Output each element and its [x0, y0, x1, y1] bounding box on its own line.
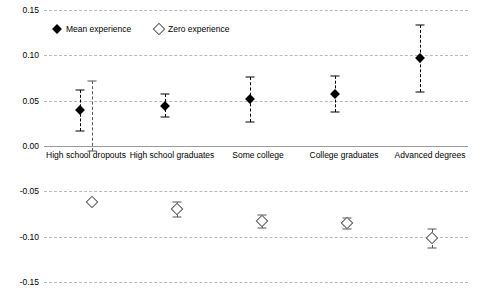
data-point-mean-experience: [160, 101, 170, 111]
error-bar-cap: [88, 80, 97, 81]
ytick-label: -0.15: [20, 277, 39, 287]
data-point-mean-experience: [415, 53, 425, 63]
data-point-zero-experience: [86, 196, 99, 209]
ytick-label: 0.05: [22, 96, 39, 106]
error-bar-cap: [161, 116, 170, 117]
error-bar-cap: [88, 150, 97, 151]
error-bar-cap: [246, 77, 255, 78]
ytick-label: 0.10: [22, 50, 39, 60]
error-bar-cap: [173, 216, 182, 217]
error-bar-cap: [76, 131, 85, 132]
data-point-mean-experience: [75, 105, 85, 115]
ytick-label: -0.10: [20, 232, 39, 242]
error-bar: [92, 81, 93, 151]
error-bar-cap: [246, 121, 255, 122]
error-bar-cap: [427, 229, 436, 230]
ytick-label: -0.05: [20, 186, 39, 196]
error-bar-cap: [161, 94, 170, 95]
ytick-label: 0.00: [22, 141, 39, 151]
error-bar-cap: [415, 25, 424, 26]
data-series-layer: [44, 10, 468, 282]
data-point-mean-experience: [245, 94, 255, 104]
error-bar-cap: [415, 91, 424, 92]
gridline--0.15: [44, 282, 468, 283]
data-point-mean-experience: [330, 89, 340, 99]
data-point-zero-experience: [425, 232, 438, 245]
chart-container: 0.15 0.10 0.05 0.00 -0.05 -0.10 -0.15 Me…: [0, 0, 483, 299]
error-bar-cap: [76, 89, 85, 90]
ytick-label: 0.15: [22, 5, 39, 15]
error-bar-cap: [427, 247, 436, 248]
plot-area: 0.15 0.10 0.05 0.00 -0.05 -0.10 -0.15 Me…: [44, 10, 468, 282]
data-point-zero-experience: [256, 215, 269, 228]
data-point-zero-experience: [171, 203, 184, 216]
error-bar-cap: [330, 111, 339, 112]
error-bar-cap: [330, 76, 339, 77]
